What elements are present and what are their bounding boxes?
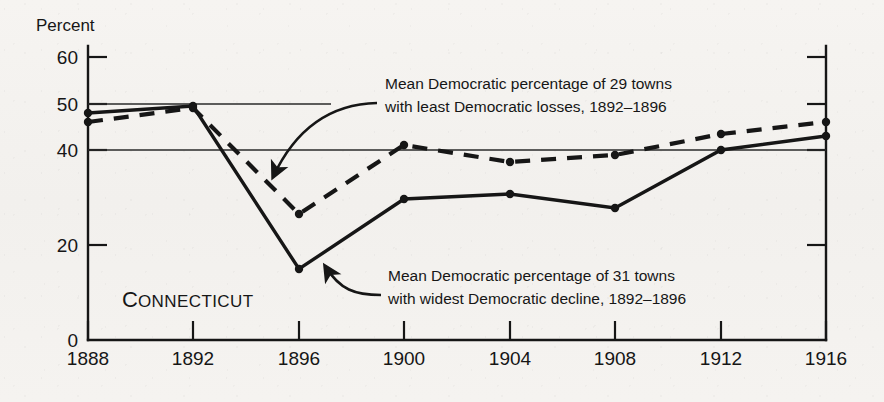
x-tick-labels: 1888 1892 1896 1900 1904 1908 1912 1916 [67, 348, 847, 369]
annotation-widest-decline-line1: Mean Democratic percentage of 31 towns [388, 267, 675, 284]
annotation-widest-decline-line2: with widest Democratic decline, 1892–189… [387, 290, 686, 307]
annotation-least-losses: Mean Democratic percentage of 29 towns w… [384, 75, 672, 115]
data-point [611, 204, 619, 212]
data-point [822, 118, 830, 126]
series-widest-decline-markers [84, 102, 830, 273]
x-tick-label-1888: 1888 [67, 348, 109, 369]
data-point [295, 210, 303, 218]
x-tick-label-1908: 1908 [594, 348, 636, 369]
y-tick-label-60: 60 [57, 47, 78, 68]
annotation-arrow-widest-decline [325, 266, 381, 295]
series-widest-decline-line [88, 106, 826, 269]
data-point [400, 195, 408, 203]
chart-svg: Percent 60 50 40 20 0 1888 1892 1896 190… [0, 0, 884, 402]
state-label: C ONNECTICUT [122, 287, 253, 312]
x-tick-label-1900: 1900 [383, 348, 425, 369]
y-tick-label-40: 40 [57, 140, 78, 161]
series-widest-decline-solid [84, 102, 830, 273]
x-tick-label-1916: 1916 [805, 348, 847, 369]
annotation-least-losses-line1: Mean Democratic percentage of 29 towns [385, 75, 672, 92]
annotation-widest-decline: Mean Democratic percentage of 31 towns w… [387, 267, 686, 307]
state-label-initial: C [122, 287, 138, 312]
data-point [717, 146, 725, 154]
annotation-least-losses-line2: with least Democratic losses, 1892–1896 [384, 98, 667, 115]
y-axis-label: Percent [36, 16, 95, 35]
data-point [295, 265, 303, 273]
y-axis-ticks-left [88, 57, 107, 245]
data-point [506, 158, 514, 166]
y-tick-labels: 60 50 40 20 0 [57, 47, 78, 351]
data-point [822, 132, 830, 140]
x-tick-label-1912: 1912 [700, 348, 742, 369]
series-least-losses-dashed [84, 104, 830, 218]
data-point [189, 102, 197, 110]
data-point [84, 109, 92, 117]
x-tick-label-1904: 1904 [489, 348, 532, 369]
data-point [506, 190, 514, 198]
data-point [717, 130, 725, 138]
series-least-losses-markers [84, 104, 830, 218]
y-axis-ticks-right [807, 57, 826, 245]
data-point [611, 151, 619, 159]
data-point [400, 141, 408, 149]
state-label-rest: ONNECTICUT [138, 292, 253, 311]
y-tick-label-50: 50 [57, 94, 78, 115]
data-point [84, 118, 92, 126]
chart-figure: Percent 60 50 40 20 0 1888 1892 1896 190… [0, 0, 884, 402]
annotation-arrow-least-losses [273, 103, 377, 177]
x-axis-ticks [88, 321, 826, 340]
y-tick-label-20: 20 [57, 235, 78, 256]
x-tick-label-1896: 1896 [278, 348, 320, 369]
x-tick-label-1892: 1892 [172, 348, 214, 369]
